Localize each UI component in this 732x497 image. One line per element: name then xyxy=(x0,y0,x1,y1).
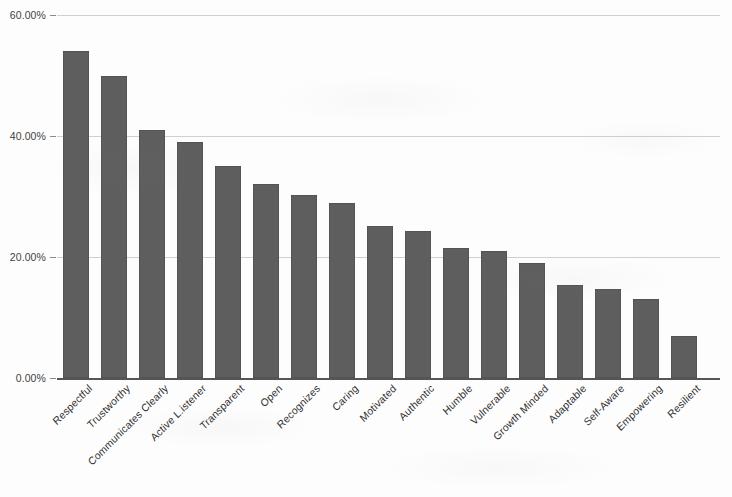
y-axis-tick-label: 20.00% xyxy=(10,251,46,263)
x-axis-tick-label: Resilient xyxy=(665,382,703,420)
x-axis-tick-label: Open xyxy=(257,382,284,409)
x-axis-line xyxy=(57,378,720,380)
plot-area: 0.00%20.00%40.00%60.00% xyxy=(57,15,720,378)
bar xyxy=(557,285,583,378)
x-axis-tick-label: Humble xyxy=(440,382,475,417)
bar xyxy=(671,336,697,378)
y-axis-tick-mark xyxy=(50,378,56,379)
bar xyxy=(595,289,621,378)
bar xyxy=(177,142,203,378)
bar xyxy=(291,195,317,378)
bar xyxy=(519,263,545,378)
y-axis-tick-label: 0.00% xyxy=(16,372,46,384)
bar xyxy=(139,130,165,378)
bar xyxy=(443,248,469,378)
bar xyxy=(633,299,659,378)
bar xyxy=(215,166,241,378)
y-axis-tick-mark xyxy=(50,15,56,16)
x-axis-labels: RespectfulTrustworthyCommunicates Clearl… xyxy=(57,382,720,497)
bar xyxy=(481,251,507,378)
bar xyxy=(329,203,355,378)
bar xyxy=(253,184,279,378)
bar-chart: 0.00%20.00%40.00%60.00% RespectfulTrustw… xyxy=(0,0,732,497)
y-axis-tick-mark xyxy=(50,257,56,258)
y-axis-tick-label: 40.00% xyxy=(10,130,46,142)
x-axis-tick-label: Caring xyxy=(329,382,360,413)
bars-layer xyxy=(57,15,720,378)
x-axis-tick-label: Motivated xyxy=(357,382,399,424)
bar xyxy=(101,76,127,379)
bar xyxy=(367,226,393,378)
bar xyxy=(405,231,431,378)
x-axis-tick-label: Authentic xyxy=(396,382,436,422)
bar xyxy=(63,51,89,378)
y-axis-tick-label: 60.00% xyxy=(10,9,46,21)
y-axis-tick-mark xyxy=(50,136,56,137)
